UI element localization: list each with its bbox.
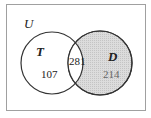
universe-label: U [24, 17, 33, 30]
set-t-only-count: 107 [41, 69, 58, 80]
set-d-label: D [108, 50, 117, 63]
set-d-only-count: 214 [103, 69, 120, 80]
intersection-count: 281 [69, 56, 86, 67]
set-t-label: T [36, 45, 44, 58]
